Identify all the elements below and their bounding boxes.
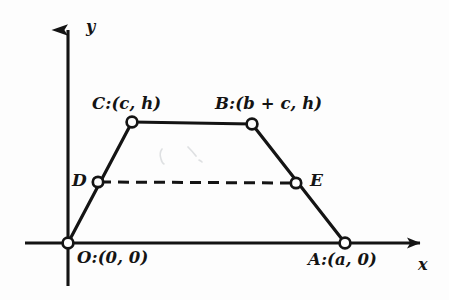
- point-marker-C: [127, 117, 138, 128]
- y-axis-label: y: [86, 19, 95, 35]
- point-label-O: O:(0, 0): [77, 250, 148, 267]
- trapezoid-coordinate-figure: C:(c, h) B:(b + c, h) D E O:(0, 0) A:(a,…: [0, 0, 449, 300]
- point-marker-B: [247, 119, 258, 130]
- point-label-D: D: [72, 172, 87, 189]
- point-marker-A: [340, 238, 351, 249]
- point-marker-E: [291, 178, 301, 188]
- point-label-A: A:(a, 0): [308, 252, 377, 269]
- x-axis-label: x: [418, 257, 428, 273]
- scan-artifact-marks: [160, 147, 202, 164]
- point-label-B: B:(b + c, h): [215, 96, 322, 113]
- segment-DE-dashed: [100, 182, 294, 183]
- diagram-canvas: [0, 0, 449, 300]
- point-marker-O: [63, 238, 74, 249]
- point-marker-D: [93, 177, 103, 187]
- segment-CB: [132, 122, 252, 124]
- point-label-E: E: [310, 172, 323, 189]
- point-label-C: C:(c, h): [92, 96, 161, 113]
